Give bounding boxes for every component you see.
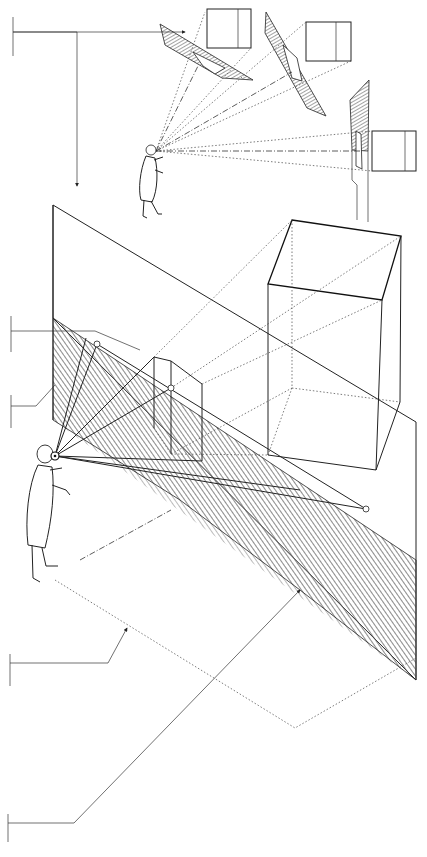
inset-illustration <box>140 9 416 222</box>
inset-sight-rays <box>156 12 372 171</box>
perspective-diagram <box>0 0 427 857</box>
diagram-canvas <box>0 0 427 857</box>
inset-panel-1 <box>160 9 253 80</box>
observer-small <box>140 145 163 218</box>
picture-plane <box>53 205 416 680</box>
observer-main <box>27 445 70 582</box>
inset-panel-2 <box>265 12 351 116</box>
